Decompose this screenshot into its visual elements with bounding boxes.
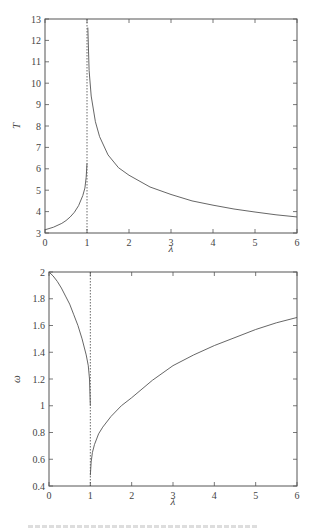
y-axis-label: ω <box>10 375 22 383</box>
y-tick-label: 4 <box>36 206 41 217</box>
series-line <box>90 317 297 475</box>
x-tick-label: 0 <box>43 237 48 248</box>
x-tick-label: 2 <box>129 490 134 501</box>
chart-svg: 0123456345678910111213λT01234560.40.60.8… <box>0 0 310 528</box>
y-tick-label: 3 <box>36 228 41 239</box>
y-tick-label: 1.8 <box>33 293 46 304</box>
y-tick-label: 7 <box>36 142 41 153</box>
y-tick-label: 1.4 <box>33 347 46 358</box>
y-tick-label: 11 <box>31 56 41 67</box>
x-tick-label: 4 <box>212 490 217 501</box>
plot-ω: 01234560.40.60.811.21.41.61.82λω <box>10 267 300 508</box>
figure: 0123456345678910111213λT01234560.40.60.8… <box>0 0 310 528</box>
y-tick-label: 5 <box>36 185 41 196</box>
y-tick-label: 12 <box>31 35 41 46</box>
y-tick-label: 0.6 <box>33 454 46 465</box>
y-tick-label: 2 <box>40 267 45 278</box>
y-axis-label: T <box>10 122 22 129</box>
y-tick-label: 10 <box>31 78 41 89</box>
series-line <box>49 272 90 406</box>
plot-frame <box>49 272 297 486</box>
x-tick-label: 2 <box>127 237 132 248</box>
x-tick-label: 4 <box>211 237 216 248</box>
x-tick-label: 6 <box>295 490 300 501</box>
y-tick-label: 8 <box>36 121 41 132</box>
y-tick-label: 9 <box>36 99 41 110</box>
y-tick-label: 13 <box>31 14 41 25</box>
y-tick-label: 0.8 <box>33 427 46 438</box>
x-tick-label: 5 <box>253 490 258 501</box>
y-tick-label: 1.2 <box>33 374 46 385</box>
y-tick-label: 6 <box>36 163 41 174</box>
y-tick-label: 1.6 <box>33 320 46 331</box>
figure-caption-truncated <box>28 521 258 528</box>
x-tick-label: 0 <box>47 490 52 501</box>
x-tick-label: 1 <box>88 490 93 501</box>
x-tick-label: 5 <box>253 237 258 248</box>
y-tick-label: 1 <box>40 400 45 411</box>
series-line <box>88 28 297 217</box>
series-line <box>45 163 87 229</box>
x-axis-label: λ <box>170 495 176 507</box>
y-tick-label: 0.4 <box>33 481 46 492</box>
plot-frame <box>45 19 297 233</box>
x-tick-label: 1 <box>85 237 90 248</box>
plot-T: 0123456345678910111213λT <box>10 14 300 255</box>
x-tick-label: 6 <box>295 237 300 248</box>
x-axis-label: λ <box>168 242 174 254</box>
